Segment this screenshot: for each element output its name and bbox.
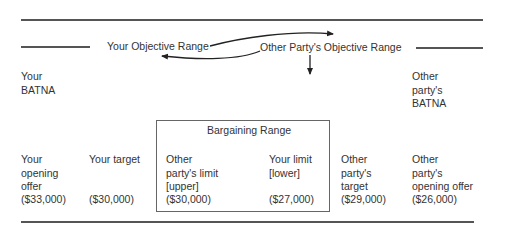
bottom-rule	[21, 221, 474, 223]
point-value: ($30,000)	[166, 193, 211, 207]
arrow-to-your-range-icon	[162, 51, 260, 59]
point-your-opening-offer: Your opening offer	[21, 153, 58, 194]
point-your-target: Your target	[89, 153, 140, 167]
point-value: ($27,000)	[269, 193, 314, 207]
point-other-party-target: Other party's target	[341, 153, 372, 194]
point-value: ($26,000)	[412, 193, 457, 207]
your-batna-label: Your BATNA	[21, 70, 55, 97]
bargaining-range-title: Bargaining Range	[207, 124, 291, 138]
other-batna-label: Other party's BATNA	[412, 70, 446, 111]
point-your-limit: Your limit [lower]	[269, 153, 312, 180]
point-other-party-opening-offer: Other party's opening offer	[412, 153, 473, 194]
point-value: ($33,000)	[21, 193, 66, 207]
arrow-to-other-range-icon	[210, 33, 333, 46]
point-value: ($30,000)	[89, 193, 134, 207]
point-other-party-limit: Other party's limit [upper]	[166, 153, 218, 194]
point-label: Your opening offer	[21, 153, 58, 194]
point-value: ($29,000)	[341, 193, 386, 207]
